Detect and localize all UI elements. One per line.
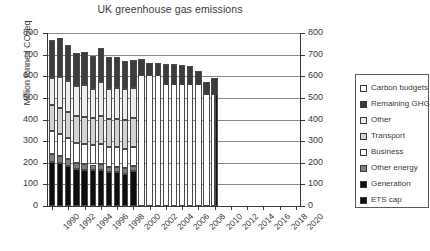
y-tick-left <box>43 120 47 121</box>
table-row <box>171 84 177 206</box>
y-tick-left <box>43 163 47 164</box>
bar-segment <box>106 147 112 166</box>
x-tick-label: 2008 <box>208 212 227 231</box>
legend-swatch-icon <box>360 85 367 92</box>
gridline <box>48 33 300 34</box>
bar-segment <box>215 94 218 206</box>
bar-segment <box>65 166 71 206</box>
legend-transport[interactable]: Transport <box>360 128 428 144</box>
table-row <box>146 75 152 206</box>
y-tick-left <box>43 141 47 142</box>
table-row <box>122 61 128 206</box>
bar-segment <box>49 40 55 79</box>
bar-segment <box>155 75 161 206</box>
bar-segment <box>106 57 112 89</box>
legend-swatch-icon <box>360 149 367 156</box>
bar-segment <box>138 75 144 206</box>
y-tick-label-left: 800 <box>8 28 38 37</box>
bar-segment <box>65 45 71 80</box>
bar-segment <box>65 81 71 112</box>
y-tick-right <box>301 163 305 164</box>
bar-segment <box>114 147 120 166</box>
y-tick-right <box>301 55 305 56</box>
legend-other[interactable]: Other <box>360 112 428 128</box>
bar-segment <box>57 38 63 77</box>
bar-segment <box>81 117 87 144</box>
bar-segment <box>81 52 87 84</box>
bar-segment <box>49 162 55 206</box>
y-tick-label-left: 600 <box>8 71 38 80</box>
y-tick-label-left: 200 <box>8 158 38 167</box>
y-tick-label-right: 200 <box>308 158 338 167</box>
bar-segment <box>106 89 112 119</box>
table-row <box>57 38 63 206</box>
bar-segment <box>163 84 169 206</box>
bar-segment <box>49 154 55 162</box>
x-tick <box>247 206 248 210</box>
bar-segment <box>73 53 79 87</box>
bar-segment <box>114 172 120 206</box>
bar-segment <box>98 48 104 83</box>
bar-segment <box>90 165 96 171</box>
x-tick <box>280 206 281 210</box>
legend-swatch-icon <box>360 197 367 204</box>
bar-segment <box>211 78 217 94</box>
bar-segment <box>57 163 63 206</box>
y-tick-label-right: 600 <box>308 71 338 80</box>
y-tick-label-right: 800 <box>308 28 338 37</box>
legend-carbon-budgets[interactable]: Carbon budgets <box>360 80 428 96</box>
legend-other-energy[interactable]: Other energy <box>360 160 428 176</box>
bar-segment <box>130 147 136 166</box>
bar-segment <box>98 170 104 206</box>
y-tick-label-left: 300 <box>8 136 38 145</box>
legend-business[interactable]: Business <box>360 144 428 160</box>
y-tick-left <box>43 98 47 99</box>
legend-remaining-ghg[interactable]: Remaining GHG <box>360 96 428 112</box>
x-tick <box>231 206 232 210</box>
bar-segment <box>98 164 104 170</box>
legend-generation[interactable]: Generation <box>360 176 428 192</box>
x-tick <box>198 206 199 210</box>
y-tick-label-left: 400 <box>8 115 38 124</box>
legend-label: Remaining GHG <box>371 100 430 108</box>
x-tick <box>133 206 134 210</box>
bar-segment <box>106 172 112 206</box>
bar-segment <box>203 94 209 206</box>
y-tick-label-right: 100 <box>308 179 338 188</box>
x-tick <box>150 206 151 210</box>
table-row <box>215 94 218 206</box>
bar-segment <box>187 84 193 206</box>
x-tick-label: 2000 <box>143 212 162 231</box>
x-tick-label: 2018 <box>289 212 308 231</box>
table-row <box>98 48 104 206</box>
chart-legend: Carbon budgetsRemaining GHGOtherTranspor… <box>355 74 429 208</box>
bar-segment <box>90 118 96 145</box>
y-tick-label-right: 0 <box>308 201 338 210</box>
bar-segment <box>49 78 55 105</box>
x-tick-label: 2010 <box>224 212 243 231</box>
bar-segment <box>49 131 55 154</box>
bar-segment <box>130 118 136 147</box>
bar-segment <box>81 170 87 206</box>
legend-swatch-icon <box>360 165 367 172</box>
legend-label: Other <box>371 116 391 124</box>
bar-segment <box>163 64 169 86</box>
bar-segment <box>65 159 71 166</box>
bar-segment <box>90 170 96 206</box>
x-tick <box>182 206 183 210</box>
bar-segment <box>65 112 71 139</box>
bar-segment <box>130 88 136 119</box>
table-row <box>138 75 144 206</box>
bar-segment <box>98 116 104 144</box>
x-tick <box>117 206 118 210</box>
y-tick-right <box>301 141 305 142</box>
legend-label: Business <box>371 148 403 156</box>
table-row <box>179 84 185 206</box>
legend-ets-cap[interactable]: ETS cap <box>360 192 428 208</box>
bar-segment <box>57 156 63 163</box>
y-tick-label-right: 300 <box>308 136 338 145</box>
bar-segment <box>73 143 79 162</box>
table-row <box>81 52 87 206</box>
bar-segment <box>114 88 120 119</box>
bar-segment <box>114 119 120 148</box>
